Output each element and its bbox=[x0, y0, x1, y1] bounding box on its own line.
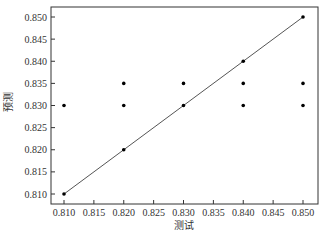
data-point bbox=[301, 82, 305, 86]
y-axis-label: 预测 bbox=[2, 92, 14, 112]
data-point bbox=[182, 104, 186, 108]
y-tick-label: 0.810 bbox=[25, 189, 48, 200]
x-tick-label: 0.835 bbox=[202, 207, 225, 218]
x-tick-label: 0.815 bbox=[83, 207, 106, 218]
y-tick-label: 0.820 bbox=[25, 144, 48, 155]
scatter-chart: 0.8100.8150.8200.8250.8300.8350.8400.845… bbox=[0, 0, 325, 238]
y-tick-label: 0.850 bbox=[25, 12, 48, 23]
x-axis-ticks: 0.8100.8150.8200.8250.8300.8350.8400.845… bbox=[53, 200, 315, 218]
data-point bbox=[241, 59, 245, 63]
data-point bbox=[241, 82, 245, 86]
x-tick-label: 0.825 bbox=[142, 207, 165, 218]
data-point bbox=[122, 82, 126, 86]
x-tick-label: 0.820 bbox=[113, 207, 136, 218]
y-tick-label: 0.835 bbox=[25, 78, 48, 89]
y-tick-label: 0.825 bbox=[25, 122, 48, 133]
data-point bbox=[122, 148, 126, 152]
data-point bbox=[301, 104, 305, 108]
y-tick-label: 0.840 bbox=[25, 56, 48, 67]
x-axis-label: 测试 bbox=[174, 219, 194, 231]
y-tick-label: 0.815 bbox=[25, 166, 48, 177]
x-tick-label: 0.845 bbox=[262, 207, 285, 218]
x-tick-label: 0.830 bbox=[172, 207, 195, 218]
x-tick-label: 0.810 bbox=[53, 207, 76, 218]
data-point bbox=[62, 104, 66, 108]
x-tick-label: 0.850 bbox=[292, 207, 315, 218]
x-tick-label: 0.840 bbox=[232, 207, 255, 218]
data-point bbox=[182, 82, 186, 86]
data-point bbox=[62, 192, 66, 196]
y-tick-label: 0.845 bbox=[25, 34, 48, 45]
y-axis-ticks: 0.8100.8150.8200.8250.8300.8350.8400.845… bbox=[25, 12, 56, 200]
data-point bbox=[301, 15, 305, 19]
data-point bbox=[241, 104, 245, 108]
data-point bbox=[122, 104, 126, 108]
y-tick-label: 0.830 bbox=[25, 100, 48, 111]
